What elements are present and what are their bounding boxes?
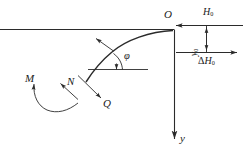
delta-h-label: ΔH0: [198, 56, 215, 66]
phi-angle-arc: [114, 54, 123, 70]
delta-h-symbol: H: [204, 55, 211, 66]
engineering-diagram: O y φ M N Q H0 ΔH0 y0: [0, 0, 251, 158]
delta-h-subscript: 0: [212, 59, 215, 66]
vertical-dimension-subscript: 0: [192, 49, 199, 52]
vertical-dimension-label: y0: [189, 49, 199, 57]
horizontal-force-label: H0: [203, 7, 213, 17]
diagram-canvas: [0, 0, 251, 158]
moment-curved-arrow: [34, 84, 78, 112]
y-axis-label: y: [180, 133, 185, 144]
shear-force-label: Q: [103, 98, 111, 109]
horizontal-force-subscript: 0: [210, 10, 213, 17]
vertical-dimension-symbol: y: [188, 52, 199, 56]
normal-force-label: N: [67, 76, 74, 87]
moment-label: M: [25, 73, 34, 84]
origin-label: O: [164, 9, 172, 20]
shear-force-arrow: [78, 76, 101, 99]
phi-angle-label: φ: [124, 51, 130, 62]
tangent-arrow: [96, 39, 114, 52]
